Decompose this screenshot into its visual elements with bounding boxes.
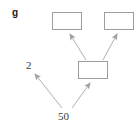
value-label-two: 2 <box>26 60 32 71</box>
value-label-fifty: 50 <box>58 111 69 122</box>
node-box-middle[interactable] <box>78 61 108 79</box>
node-box-top-left[interactable] <box>52 12 82 30</box>
edge-middle-to-top-left <box>70 34 86 60</box>
node-box-top-right[interactable] <box>104 12 134 30</box>
figure-panel: g 2 50 <box>0 0 140 130</box>
edge-fifty-to-middle <box>72 83 90 108</box>
edge-fifty-to-two <box>35 74 62 108</box>
panel-letter-label: g <box>12 8 18 18</box>
edge-middle-to-top-right <box>103 34 117 60</box>
